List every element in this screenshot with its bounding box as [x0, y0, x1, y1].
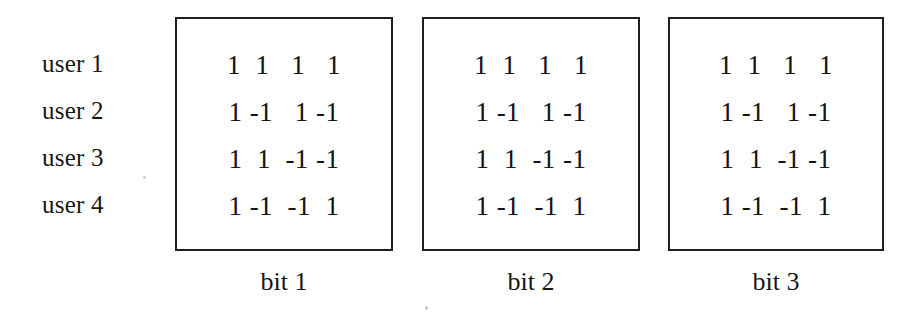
matrix-row: 1 1 1 1: [424, 42, 638, 89]
matrix-box-bit-3: 1 1 1 1 1 -1 1 -1 1 1 -1 -1 1 -1 -1 1: [668, 17, 884, 251]
row-label-user-4: user 4: [42, 181, 168, 228]
matrix-grid-bit-3: 1 1 1 1 1 -1 1 -1 1 1 -1 -1 1 -1 -1 1: [670, 42, 882, 230]
matrix-row: 1 -1 1 -1: [424, 89, 638, 136]
matrix-row: 1 1 -1 -1: [670, 136, 882, 183]
row-label-user-3: user 3: [42, 134, 168, 181]
caption-bit-2: bit 2: [422, 262, 640, 302]
scan-speck: [143, 176, 146, 179]
matrix-row: 1 -1 -1 1: [670, 183, 882, 230]
matrix-row: 1 1 1 1: [670, 42, 882, 89]
matrix-row: 1 -1 1 -1: [670, 89, 882, 136]
matrix-box-bit-2: 1 1 1 1 1 -1 1 -1 1 1 -1 -1 1 -1 -1 1: [422, 17, 640, 251]
matrix-row: 1 -1 -1 1: [424, 183, 638, 230]
matrix-row: 1 1 -1 -1: [424, 136, 638, 183]
row-label-column: user 1 user 2 user 3 user 4: [42, 16, 168, 250]
matrix-row: 1 1 -1 -1: [177, 136, 391, 183]
walsh-code-figure: user 1 user 2 user 3 user 4 1 1 1 1 1 -1…: [0, 0, 924, 328]
caption-bit-3: bit 3: [668, 262, 884, 302]
scan-speck: [425, 306, 428, 310]
matrix-row: 1 1 1 1: [177, 42, 391, 89]
matrix-row: 1 -1 -1 1: [177, 183, 391, 230]
caption-bit-1: bit 1: [175, 262, 393, 302]
matrix-box-bit-1: 1 1 1 1 1 -1 1 -1 1 1 -1 -1 1 -1 -1 1: [175, 17, 393, 251]
matrix-grid-bit-1: 1 1 1 1 1 -1 1 -1 1 1 -1 -1 1 -1 -1 1: [177, 42, 391, 230]
matrix-row: 1 -1 1 -1: [177, 89, 391, 136]
matrix-grid-bit-2: 1 1 1 1 1 -1 1 -1 1 1 -1 -1 1 -1 -1 1: [424, 42, 638, 230]
row-label-user-2: user 2: [42, 87, 168, 134]
row-label-user-1: user 1: [42, 40, 168, 87]
